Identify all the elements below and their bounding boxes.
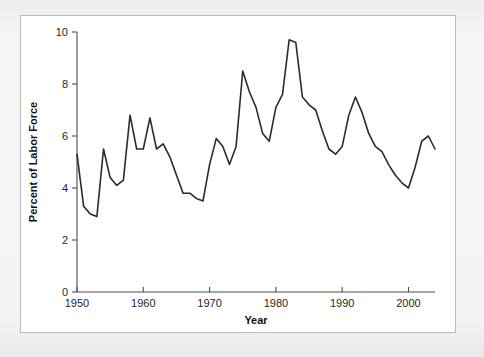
figure-root: 0246810 195019601970198019902000 Year Pe… (0, 0, 484, 357)
x-tick-label: 1990 (330, 297, 354, 309)
series-unemployment-rate (77, 40, 435, 217)
x-tick-label: 1960 (131, 297, 155, 309)
y-tick-group: 0246810 (56, 26, 77, 298)
x-tick-label: 1970 (197, 297, 221, 309)
x-tick-label: 2000 (396, 297, 420, 309)
y-tick-label: 2 (62, 234, 68, 246)
x-tick-label: 1950 (65, 297, 89, 309)
x-tick-group: 195019601970198019902000 (65, 287, 421, 309)
y-axis-title: Percent of Labor Force (27, 102, 39, 222)
y-tick-label: 6 (62, 130, 68, 142)
chart-svg: 0246810 195019601970198019902000 Year Pe… (21, 16, 455, 332)
y-tick-label: 4 (62, 182, 68, 194)
x-axis-title: Year (244, 314, 268, 326)
plot-panel: 0246810 195019601970198019902000 Year Pe… (20, 15, 456, 333)
y-tick-label: 10 (56, 26, 68, 38)
y-tick-label: 8 (62, 78, 68, 90)
line-chart: 0246810 195019601970198019902000 Year Pe… (21, 16, 455, 332)
x-tick-label: 1980 (264, 297, 288, 309)
